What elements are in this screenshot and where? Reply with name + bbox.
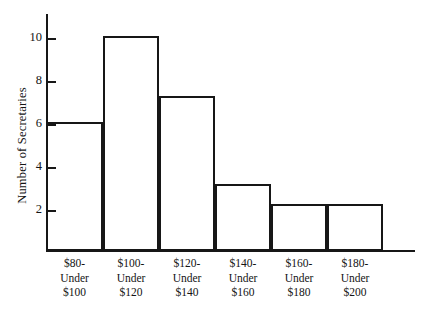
x-label-line-3: $120 [103, 285, 159, 300]
x-label-line-2: Under [327, 271, 383, 286]
x-label-line-3: $180 [271, 285, 327, 300]
y-tick-label-10: 10 [20, 31, 42, 44]
y-tick-10 [48, 38, 56, 40]
bar-140-160 [215, 184, 271, 251]
x-label-line-1: $120- [159, 256, 215, 271]
x-label-line-3: $160 [215, 285, 271, 300]
x-label-line-3: $100 [46, 285, 103, 300]
bar-160-180 [271, 204, 327, 251]
x-label-line-2: Under [159, 271, 215, 286]
x-label-line-1: $100- [103, 256, 159, 271]
y-tick-label-6: 6 [20, 117, 42, 130]
x-label-80-100: $80- Under $100 [46, 256, 103, 300]
y-tick-label-8: 8 [20, 74, 42, 87]
y-tick-8 [48, 81, 56, 83]
x-label-line-1: $140- [215, 256, 271, 271]
x-label-line-1: $180- [327, 256, 383, 271]
x-label-line-2: Under [46, 271, 103, 286]
y-tick-label-2: 2 [20, 203, 42, 216]
x-label-line-2: Under [103, 271, 159, 286]
y-tick-label-4: 4 [20, 160, 42, 173]
x-label-line-3: $200 [327, 285, 383, 300]
x-label-line-2: Under [271, 271, 327, 286]
bar-100-120 [103, 36, 159, 251]
x-label-line-2: Under [215, 271, 271, 286]
x-label-100-120: $100- Under $120 [103, 256, 159, 300]
histogram-chart: Number of Secretaries 10 8 6 4 2 $80- Un… [0, 0, 425, 310]
bar-120-140 [159, 96, 215, 251]
x-label-160-180: $160- Under $180 [271, 256, 327, 300]
x-label-line-3: $140 [159, 285, 215, 300]
x-label-180-200: $180- Under $200 [327, 256, 383, 300]
x-label-120-140: $120- Under $140 [159, 256, 215, 300]
x-label-140-160: $140- Under $160 [215, 256, 271, 300]
bar-180-200 [327, 204, 383, 251]
bar-80-100 [46, 122, 103, 251]
x-label-line-1: $160- [271, 256, 327, 271]
x-label-line-1: $80- [46, 256, 103, 271]
